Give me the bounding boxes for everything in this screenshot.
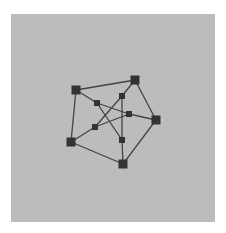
edge-i1-i3 bbox=[97, 103, 129, 114]
node-i2 bbox=[119, 93, 125, 99]
node-o1 bbox=[72, 86, 81, 95]
edge-o3-o4 bbox=[123, 120, 156, 164]
node-o3 bbox=[152, 116, 161, 125]
node-o5 bbox=[67, 138, 76, 147]
petersen-graph bbox=[0, 0, 226, 233]
edges bbox=[71, 80, 156, 164]
node-i5 bbox=[92, 124, 98, 130]
node-i4 bbox=[119, 137, 125, 143]
edge-o5-o1 bbox=[71, 90, 76, 142]
node-i1 bbox=[94, 100, 100, 106]
node-i3 bbox=[126, 111, 132, 117]
node-o2 bbox=[131, 76, 140, 85]
node-o4 bbox=[119, 160, 128, 169]
edge-o4-o5 bbox=[71, 142, 123, 164]
edge-o2-o3 bbox=[135, 80, 156, 120]
edge-o1-o2 bbox=[76, 80, 135, 90]
edge-i4-i1 bbox=[97, 103, 122, 140]
